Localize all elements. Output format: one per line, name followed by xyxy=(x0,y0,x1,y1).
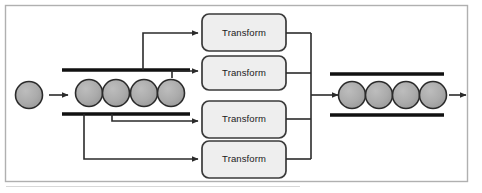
transform-stage-3[interactable]: Transform xyxy=(202,101,286,138)
output-pipe-item xyxy=(420,82,447,109)
output-pipe-item xyxy=(393,82,420,109)
diagram-canvas: Transform Transform Transform Transform xyxy=(0,0,482,193)
figure-container: Transform Transform Transform Transform xyxy=(0,0,482,193)
transform-label-3: Transform xyxy=(222,113,266,124)
input-pipe-item xyxy=(131,80,158,107)
transform-label-1: Transform xyxy=(222,27,266,38)
transform-label-4: Transform xyxy=(222,153,266,164)
transform-stage-4[interactable]: Transform xyxy=(202,141,286,178)
transform-label-2: Transform xyxy=(222,67,266,78)
output-pipe-item xyxy=(339,82,366,109)
input-pipe-item xyxy=(103,80,130,107)
transform-stage-1[interactable]: Transform xyxy=(202,14,286,51)
transform-stage-2[interactable]: Transform xyxy=(202,56,286,90)
input-pipe-item xyxy=(158,80,185,107)
incoming-item xyxy=(16,82,43,109)
input-pipe-item xyxy=(76,80,103,107)
output-pipe-item xyxy=(366,82,393,109)
